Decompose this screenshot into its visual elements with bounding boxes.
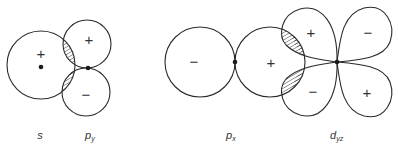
- sign-py-lower: −: [82, 86, 91, 103]
- s-nucleus: [39, 65, 44, 70]
- label-px: px: [225, 129, 236, 142]
- sign-py-upper: +: [85, 31, 94, 48]
- py-nucleus: [86, 66, 91, 71]
- sign-dyz-upper-right: −: [364, 24, 373, 41]
- sign-dyz-lower-right: +: [363, 84, 372, 101]
- sign-dyz-upper-left: +: [307, 24, 316, 41]
- label-py: py: [84, 129, 95, 143]
- px-dyz-diagram: − + + − − + px dyz: [165, 7, 392, 143]
- px-left-lobe: [165, 27, 235, 97]
- s-py-diagram: + + − s py: [7, 20, 111, 143]
- orbital-overlap-diagram: + + − s py − + + − − + px dyz: [0, 0, 398, 152]
- px-nucleus: [233, 60, 238, 65]
- label-s: s: [37, 129, 43, 141]
- sign-dyz-lower-left: −: [309, 83, 318, 100]
- sign-px-left: −: [190, 53, 199, 70]
- sign-s: +: [37, 45, 46, 62]
- dyz-nucleus: [335, 60, 340, 65]
- label-dyz: dyz: [330, 129, 344, 143]
- sign-px-right: +: [267, 54, 276, 71]
